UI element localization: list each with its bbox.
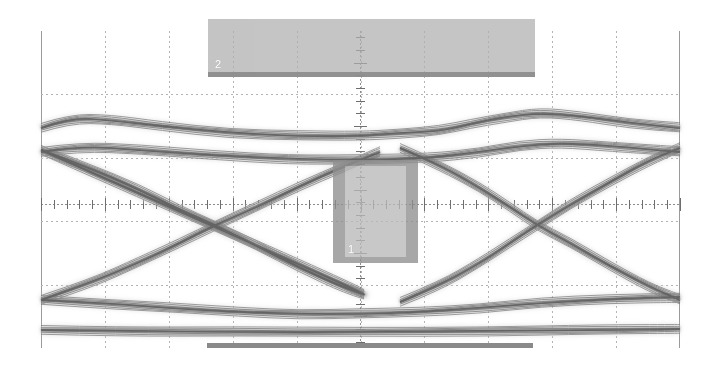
y-axis-tick bbox=[356, 329, 365, 330]
x-axis-tick bbox=[297, 198, 298, 211]
x-axis-tick bbox=[271, 200, 272, 209]
y-axis-tick bbox=[354, 126, 367, 127]
x-axis-tick bbox=[79, 200, 80, 209]
x-axis-tick bbox=[169, 198, 170, 211]
grid-vline bbox=[169, 31, 170, 348]
x-axis-tick bbox=[527, 200, 528, 209]
x-axis-tick bbox=[258, 200, 259, 209]
x-axis-tick bbox=[143, 200, 144, 209]
channel-2-gate-underline bbox=[208, 72, 535, 77]
x-axis-tick bbox=[629, 200, 630, 209]
x-axis-tick bbox=[284, 200, 285, 209]
grid-vline bbox=[552, 31, 553, 348]
y-axis-tick bbox=[356, 266, 365, 267]
x-axis-tick bbox=[514, 200, 515, 209]
x-axis-tick bbox=[539, 200, 540, 209]
x-axis-tick bbox=[309, 200, 310, 209]
x-axis-tick bbox=[41, 198, 42, 211]
x-axis-tick bbox=[488, 198, 489, 211]
x-axis-tick bbox=[680, 198, 681, 211]
x-axis-tick bbox=[105, 198, 106, 211]
x-axis-tick bbox=[591, 200, 592, 209]
x-axis-tick bbox=[233, 198, 234, 211]
x-axis-tick bbox=[616, 198, 617, 211]
grid-vline bbox=[297, 31, 298, 348]
x-axis-tick bbox=[642, 200, 643, 209]
x-axis-tick bbox=[182, 200, 183, 209]
y-axis-tick bbox=[356, 151, 365, 152]
x-axis-tick bbox=[654, 200, 655, 209]
x-axis-tick bbox=[437, 200, 438, 209]
x-axis-tick bbox=[322, 200, 323, 209]
x-axis-tick bbox=[501, 200, 502, 209]
x-axis-tick bbox=[565, 200, 566, 209]
y-axis-tick bbox=[356, 139, 365, 140]
x-axis-tick bbox=[450, 200, 451, 209]
x-axis-tick bbox=[54, 200, 55, 209]
x-axis-tick bbox=[207, 200, 208, 209]
x-axis-tick bbox=[92, 200, 93, 209]
grid-vline bbox=[424, 31, 425, 348]
y-axis-tick bbox=[356, 304, 365, 305]
y-axis-tick bbox=[356, 291, 365, 292]
grid-vline bbox=[105, 31, 106, 348]
x-axis-tick bbox=[194, 200, 195, 209]
x-axis-tick bbox=[130, 200, 131, 209]
x-axis-tick bbox=[667, 200, 668, 209]
bottom-gate-bar[interactable] bbox=[207, 343, 533, 348]
graticule-left-border bbox=[41, 31, 42, 348]
y-axis-tick bbox=[356, 101, 365, 102]
x-axis-tick bbox=[603, 200, 604, 209]
y-axis-tick bbox=[356, 88, 365, 89]
grid-vline bbox=[233, 31, 234, 348]
channel-2-label: 2 bbox=[215, 59, 221, 70]
x-axis-tick bbox=[463, 200, 464, 209]
x-axis-tick bbox=[245, 200, 246, 209]
y-axis-tick bbox=[356, 278, 365, 279]
x-axis-tick bbox=[156, 200, 157, 209]
channel-1-gate-box[interactable]: 1 bbox=[333, 160, 418, 263]
x-axis-tick bbox=[220, 200, 221, 209]
x-axis-tick bbox=[118, 200, 119, 209]
oscilloscope-screen: 2 1 bbox=[0, 0, 715, 368]
x-axis-tick bbox=[476, 200, 477, 209]
grid-vline bbox=[616, 31, 617, 348]
x-axis-tick bbox=[424, 198, 425, 211]
x-axis-tick bbox=[552, 198, 553, 211]
x-axis-tick bbox=[67, 200, 68, 209]
x-axis-tick bbox=[578, 200, 579, 209]
graticule-right-border bbox=[679, 31, 680, 348]
y-axis-tick bbox=[356, 113, 365, 114]
channel-1-label: 1 bbox=[348, 244, 354, 255]
grid-vline bbox=[488, 31, 489, 348]
y-axis-tick bbox=[354, 316, 367, 317]
channel-2-gate-box[interactable]: 2 bbox=[208, 19, 535, 77]
